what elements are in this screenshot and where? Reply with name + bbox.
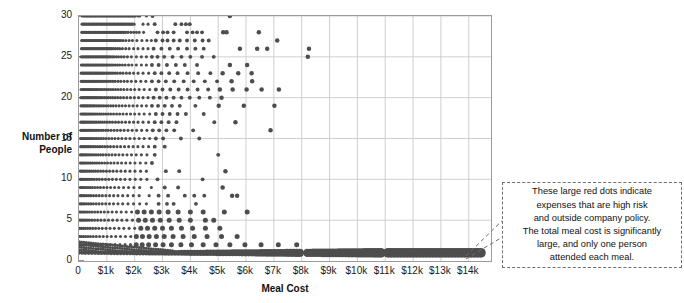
data-point <box>244 87 249 92</box>
data-point <box>169 226 174 231</box>
y-tick-label: 30 <box>42 10 72 20</box>
data-point <box>172 39 176 43</box>
data-point <box>117 186 120 189</box>
data-point <box>121 63 124 66</box>
data-point <box>98 194 101 197</box>
data-point <box>148 88 151 91</box>
data-point <box>201 39 205 43</box>
data-point <box>96 170 99 173</box>
data-point <box>141 47 144 50</box>
data-point <box>193 47 197 51</box>
data-point <box>119 88 122 91</box>
data-point <box>233 120 238 125</box>
data-point <box>169 242 174 247</box>
data-point <box>161 88 165 92</box>
data-point <box>167 71 171 75</box>
data-point <box>164 169 168 173</box>
data-point <box>116 129 119 132</box>
data-point <box>120 161 123 164</box>
data-point <box>111 178 114 181</box>
data-point <box>150 55 154 59</box>
data-point <box>161 242 166 247</box>
data-point <box>148 137 151 140</box>
data-point <box>183 194 187 198</box>
data-point <box>201 242 206 247</box>
data-point <box>115 178 118 181</box>
data-point <box>249 71 254 76</box>
data-point <box>129 96 132 99</box>
data-point <box>112 145 115 148</box>
data-point <box>206 88 210 92</box>
data-point <box>188 218 193 223</box>
data-point <box>220 71 225 76</box>
data-point <box>116 219 119 222</box>
data-point <box>132 47 135 50</box>
data-point <box>114 80 117 83</box>
data-point <box>195 63 199 67</box>
data-point <box>124 137 127 140</box>
data-point <box>152 226 157 231</box>
data-point <box>230 193 235 198</box>
data-point <box>170 104 174 108</box>
data-point <box>164 79 168 83</box>
data-point <box>146 47 149 50</box>
data-point <box>135 63 138 66</box>
data-point <box>157 79 161 83</box>
data-point <box>140 129 143 132</box>
data-point <box>185 30 189 34</box>
data-point <box>117 227 120 230</box>
data-point <box>94 227 97 230</box>
data-point <box>99 186 102 189</box>
data-point <box>142 210 147 215</box>
data-point <box>95 202 98 205</box>
data-point <box>124 47 127 50</box>
data-point <box>200 30 204 34</box>
data-point <box>127 145 130 148</box>
data-point <box>102 170 105 173</box>
data-point <box>111 210 114 213</box>
data-point <box>108 121 111 124</box>
data-point <box>95 178 98 181</box>
data-point <box>177 88 181 92</box>
data-point <box>116 72 119 75</box>
data-point <box>101 194 104 197</box>
data-point <box>152 47 156 51</box>
data-point <box>228 16 233 18</box>
data-point <box>181 234 186 239</box>
data-point <box>131 129 134 132</box>
data-point <box>154 88 158 92</box>
data-point <box>143 137 146 140</box>
gridlines <box>79 16 491 261</box>
data-point <box>277 87 282 92</box>
data-point <box>98 178 101 181</box>
data-point <box>118 63 121 66</box>
data-point <box>135 153 138 156</box>
data-point <box>104 153 107 156</box>
data-point <box>164 128 168 132</box>
data-point <box>159 120 163 124</box>
data-point <box>203 226 208 231</box>
data-point <box>114 121 117 124</box>
data-point <box>143 218 148 223</box>
data-point <box>148 194 151 197</box>
data-point <box>159 47 163 51</box>
data-point <box>145 170 148 173</box>
data-point <box>148 112 151 115</box>
data-point <box>116 80 119 83</box>
data-point <box>118 47 121 50</box>
data-point <box>124 121 127 124</box>
data-point <box>99 170 102 173</box>
data-point <box>156 177 160 181</box>
data-point <box>136 104 139 107</box>
data-point <box>179 96 183 100</box>
data-point <box>119 235 122 238</box>
data-point <box>126 80 129 83</box>
data-point <box>191 30 195 34</box>
data-point <box>117 137 120 140</box>
data-point <box>133 137 136 140</box>
data-point <box>98 235 101 238</box>
y-tick-label: 5 <box>42 214 72 224</box>
data-point <box>117 153 120 156</box>
data-point <box>128 104 131 107</box>
data-point <box>250 79 255 84</box>
